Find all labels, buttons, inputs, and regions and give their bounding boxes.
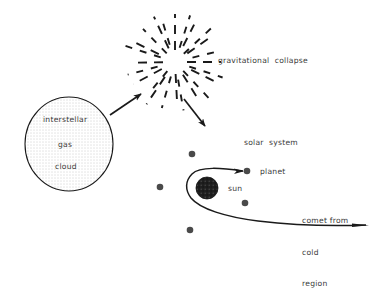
label-gravitational-collapse: gravitational collapse	[218, 56, 308, 67]
label-comet-line-3: region	[302, 279, 348, 290]
burst-ray	[143, 29, 167, 54]
burst-ray	[148, 71, 167, 94]
burst-ray	[128, 67, 158, 75]
label-comet-line-1: comet from	[302, 216, 348, 227]
arrow-orbit-to-planet	[234, 169, 244, 174]
burst-ray	[183, 71, 210, 100]
gravitational-collapse-burst	[126, 14, 223, 110]
label-comet-line-2: cold	[302, 248, 348, 259]
burst-ray	[147, 77, 165, 104]
label-cloud-line-3: cloud	[55, 162, 77, 173]
field-dot	[242, 200, 249, 207]
burst-ray	[131, 62, 163, 63]
sun-body	[196, 177, 218, 199]
field-dot	[187, 227, 194, 234]
arrow-cloud-to-collapse	[110, 94, 141, 115]
burst-ray	[178, 80, 183, 111]
burst-ray	[154, 17, 169, 49]
comet-tail-arrowhead	[352, 224, 369, 228]
label-sun: sun	[228, 184, 242, 195]
label-cloud-line-1: interstellar	[43, 115, 87, 126]
burst-ray	[136, 43, 158, 54]
label-comet-block: comet from cold region	[302, 195, 348, 292]
label-planet: planet	[260, 167, 286, 178]
burst-ray	[183, 75, 198, 100]
planet-dot	[244, 168, 251, 175]
label-cloud-line-2: gas	[58, 140, 72, 151]
label-solar-system: solar system	[244, 138, 298, 149]
burst-ray	[191, 70, 213, 81]
burst-ray	[183, 25, 194, 46]
field-dot	[189, 151, 196, 158]
field-dot	[157, 184, 164, 191]
burst-ray	[184, 27, 213, 54]
burst-ray	[176, 74, 178, 103]
arrow-collapse-to-system	[184, 99, 205, 126]
